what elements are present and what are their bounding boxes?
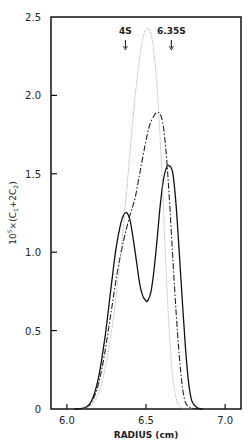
x-axis-label: RADIUS (cm) — [114, 430, 179, 440]
y-tick-label: 0 — [35, 404, 41, 415]
y-tick-label: 0.5 — [25, 326, 41, 337]
y-tick-label: 1.0 — [25, 247, 41, 258]
series-group — [75, 28, 203, 409]
y-tick-label: 1.5 — [25, 169, 41, 180]
series-line-dash-dot — [75, 112, 197, 409]
series-line-solid — [75, 165, 203, 409]
y-tick-label: 2.5 — [25, 12, 41, 23]
y-axis-ticks: 00.51.01.52.02.5 — [25, 12, 57, 415]
x-tick-label: 6.5 — [138, 415, 154, 426]
y-axis-label: 105×(C1+2C2) — [6, 181, 19, 244]
x-tick-label: 7.0 — [217, 415, 233, 426]
annotation-label: 6.35S — [157, 26, 186, 36]
chart: 6.06.57.0 00.51.01.52.02.5 4S6.35S RADIU… — [0, 0, 251, 446]
x-tick-label: 6.0 — [59, 415, 75, 426]
annotation-label: 4S — [119, 26, 132, 36]
y-tick-label: 2.0 — [25, 90, 41, 101]
plot-border — [51, 17, 241, 409]
annotations: 4S6.35S — [119, 26, 186, 50]
plot-frame — [51, 17, 241, 409]
